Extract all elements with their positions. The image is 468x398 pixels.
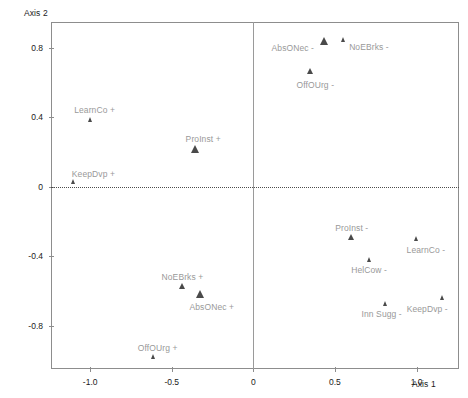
data-point-label: AbsONec + <box>190 302 235 312</box>
data-point-label: HelCow - <box>351 265 387 275</box>
y-tick-label: 0 <box>3 182 43 192</box>
y-axis-title: Axis 2 <box>24 8 48 18</box>
data-point-label: NoEBrks - <box>349 42 389 52</box>
data-point-label: KeepDvp + <box>72 169 115 179</box>
data-point-marker[interactable] <box>383 301 387 306</box>
data-point-marker[interactable] <box>196 290 204 298</box>
data-point-marker[interactable] <box>179 283 185 289</box>
x-tick-label: -0.5 <box>152 377 192 387</box>
x-tick-label: 1.0 <box>397 377 437 387</box>
data-point-marker[interactable] <box>151 354 155 359</box>
y-tick-mark <box>49 256 54 257</box>
y-zero-reference-line <box>51 187 459 188</box>
data-point-label: LearnCo + <box>74 105 115 115</box>
x-tick-mark <box>417 367 418 372</box>
y-tick-label: -0.4 <box>3 251 43 261</box>
data-point-label: ProInst + <box>186 134 221 144</box>
data-point-marker[interactable] <box>341 37 345 42</box>
data-point-marker[interactable] <box>320 37 328 45</box>
x-tick-label: 0.5 <box>315 377 355 387</box>
scatter-plot: Axis 2 Axis 1 0.80.40-0.4-0.8 -1.0-0.500… <box>0 0 468 398</box>
data-point-marker[interactable] <box>348 234 354 240</box>
x-tick-label: 0 <box>233 377 273 387</box>
y-tick-label: 0.4 <box>3 112 43 122</box>
y-tick-mark <box>49 48 54 49</box>
data-point-marker[interactable] <box>191 145 199 153</box>
data-point-label: OffOUrg - <box>296 80 334 90</box>
data-point-marker[interactable] <box>307 68 313 74</box>
data-point-marker[interactable] <box>414 236 418 241</box>
data-point-label: OffOUrg + <box>138 343 178 353</box>
y-tick-mark <box>49 117 54 118</box>
y-tick-label: 0.8 <box>3 43 43 53</box>
y-tick-label: -0.8 <box>3 321 43 331</box>
data-point-marker[interactable] <box>440 295 444 300</box>
x-tick-mark <box>172 367 173 372</box>
x-tick-label: -1.0 <box>70 377 110 387</box>
x-zero-reference-line <box>253 22 254 369</box>
data-point-label: AbsONec - <box>272 43 314 53</box>
data-point-label: Inn Sugg - <box>362 309 402 319</box>
x-tick-mark <box>335 367 336 372</box>
data-point-label: NoEBrks + <box>162 272 204 282</box>
x-tick-mark <box>90 367 91 372</box>
data-point-marker[interactable] <box>71 179 75 184</box>
y-tick-mark <box>49 326 54 327</box>
data-point-marker[interactable] <box>367 257 371 262</box>
data-point-marker[interactable] <box>88 117 92 122</box>
data-point-label: KeepDvp - <box>407 304 448 314</box>
data-point-label: ProInst - <box>335 223 368 233</box>
data-point-label: LearnCo - <box>407 245 446 255</box>
